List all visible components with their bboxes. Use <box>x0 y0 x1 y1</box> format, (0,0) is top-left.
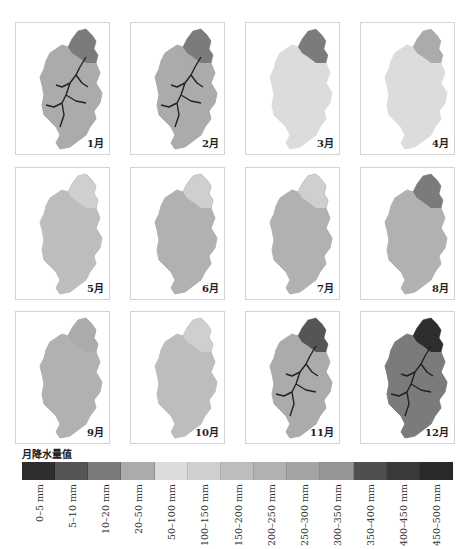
legend-labels: 0–5 mm5–10 mm10–20 mm20–50 mm50–100 mm10… <box>22 484 453 544</box>
legend-label: 100–150 mm <box>199 484 210 546</box>
map-panel-month-2: 2月 <box>130 22 225 155</box>
month-label: 3月 <box>317 135 334 150</box>
legend-label: 5–10 mm <box>66 484 77 528</box>
legend-label: 0–5 mm <box>33 484 44 522</box>
legend-swatch <box>387 462 420 480</box>
month-label: 12月 <box>425 424 449 439</box>
legend-swatch <box>188 462 221 480</box>
legend-label: 150–200 mm <box>232 484 243 546</box>
legend-swatch <box>121 462 154 480</box>
month-label: 8月 <box>432 280 449 295</box>
legend-label: 400–450 mm <box>398 484 409 546</box>
legend-swatch <box>420 462 453 480</box>
legend-label: 200–250 mm <box>265 484 276 546</box>
legend-label: 20–50 mm <box>133 484 144 534</box>
legend-swatch <box>22 462 55 480</box>
legend-swatch <box>221 462 254 480</box>
month-label: 5月 <box>87 280 104 295</box>
legend-swatch <box>88 462 121 480</box>
map-panel-month-4: 4月 <box>360 22 455 155</box>
legend-label: 10–20 mm <box>99 484 110 534</box>
map-panel-month-12: 12月 <box>360 311 455 444</box>
map-panel-month-6: 6月 <box>130 167 225 300</box>
legend-swatch <box>254 462 287 480</box>
map-panel-month-1: 1月 <box>15 22 110 155</box>
map-panel-month-7: 7月 <box>245 167 340 300</box>
month-label: 10月 <box>195 424 219 439</box>
legend-swatch <box>155 462 188 480</box>
map-panel-month-9: 9月 <box>15 311 110 444</box>
legend-title: 月降水量值 <box>22 446 72 461</box>
legend-swatch <box>320 462 353 480</box>
legend-swatch <box>287 462 320 480</box>
map-grid: 1月2月3月4月5月6月7月8月9月10月11月12月 <box>15 22 460 446</box>
map-panel-month-10: 10月 <box>130 311 225 444</box>
map-panel-month-3: 3月 <box>245 22 340 155</box>
legend-swatch <box>55 462 88 480</box>
month-label: 7月 <box>317 280 334 295</box>
legend-color-bar <box>22 462 453 480</box>
month-label: 4月 <box>432 135 449 150</box>
figure-title-cropped <box>0 0 475 4</box>
map-panel-month-11: 11月 <box>245 311 340 444</box>
map-panel-month-8: 8月 <box>360 167 455 300</box>
month-label: 9月 <box>87 424 104 439</box>
legend-label: 450–500 mm <box>431 484 442 546</box>
month-label: 2月 <box>202 135 219 150</box>
legend-label: 350–400 mm <box>365 484 376 546</box>
legend-swatch <box>354 462 387 480</box>
legend-label: 50–100 mm <box>166 484 177 540</box>
legend-label: 250–300 mm <box>298 484 309 546</box>
month-label: 6月 <box>202 280 219 295</box>
month-label: 11月 <box>310 424 334 439</box>
legend-label: 300–350 mm <box>331 484 342 546</box>
month-label: 1月 <box>87 135 104 150</box>
map-panel-month-5: 5月 <box>15 167 110 300</box>
